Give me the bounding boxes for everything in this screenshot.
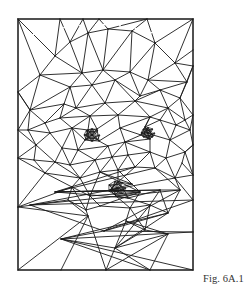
mesh-edges	[18, 19, 193, 270]
figure-caption: Fig. 6A.1	[203, 273, 244, 284]
face-mesh-diagram	[0, 0, 244, 295]
